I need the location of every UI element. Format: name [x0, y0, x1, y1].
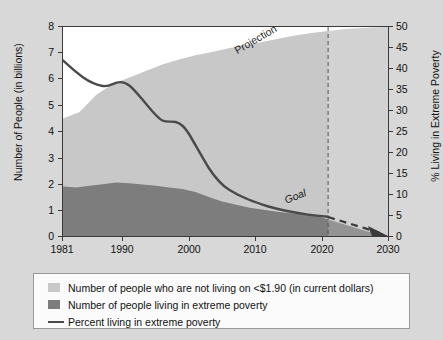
xtick-2020: 2020: [300, 243, 344, 255]
legend-swatch-extreme-poverty: [48, 300, 60, 309]
legend-swatch-not-in-poverty: [48, 283, 60, 292]
tickmark-left-6: [58, 78, 62, 79]
ytick-right-45: 45: [396, 41, 422, 53]
tickmark-right-10: [389, 194, 393, 195]
legend-item-extreme-poverty: Number of people living in extreme pover…: [48, 297, 409, 312]
projection-region: [328, 27, 388, 236]
tickmark-left-2: [58, 184, 62, 185]
plot-area: [62, 26, 389, 237]
xtick-2030: 2030: [366, 243, 410, 255]
tickmark-x-2020: [322, 237, 323, 241]
chart-svg: [63, 27, 388, 236]
tickmark-left-5: [58, 105, 62, 106]
y-axis-title-left: Number of People (in billions): [12, 32, 24, 192]
tickmark-right-15: [389, 173, 393, 174]
ytick-left-8: 8: [28, 20, 54, 32]
ytick-right-40: 40: [396, 62, 422, 74]
ytick-right-35: 35: [396, 83, 422, 95]
tickmark-left-3: [58, 158, 62, 159]
xtick-1981: 1981: [40, 243, 84, 255]
ytick-left-2: 2: [28, 178, 54, 190]
ytick-left-5: 5: [28, 99, 54, 111]
tickmark-x-2030: [388, 237, 389, 241]
tickmark-x-2010: [255, 237, 256, 241]
ytick-right-5: 5: [396, 209, 422, 221]
ytick-right-50: 50: [396, 20, 422, 32]
xtick-2000: 2000: [167, 243, 211, 255]
tickmark-right-30: [389, 110, 393, 111]
ytick-right-0: 0: [396, 230, 422, 242]
tickmark-right-20: [389, 152, 393, 153]
tickmark-x-1981: [62, 237, 63, 241]
ytick-right-10: 10: [396, 188, 422, 200]
tickmark-left-1: [58, 210, 62, 211]
tickmark-right-5: [389, 215, 393, 216]
tickmark-right-25: [389, 131, 393, 132]
tickmark-right-50: [389, 26, 393, 27]
ytick-left-4: 4: [28, 125, 54, 137]
tickmark-right-0: [389, 236, 393, 237]
ytick-left-3: 3: [28, 152, 54, 164]
tickmark-right-35: [389, 89, 393, 90]
xtick-2010: 2010: [233, 243, 277, 255]
tickmark-left-8: [58, 26, 62, 27]
tickmark-x-1990: [122, 237, 123, 241]
legend-label-extreme-poverty: Number of people living in extreme pover…: [68, 299, 268, 311]
y-axis-title-right: % Living in Extreme Poverty: [429, 26, 441, 206]
legend-item-not-in-poverty: Number of people who are not living on <…: [48, 280, 409, 295]
chart-legend: Number of people who are not living on <…: [33, 273, 410, 329]
tickmark-right-45: [389, 47, 393, 48]
legend-label-percent-line: Percent living in extreme poverty: [68, 316, 220, 328]
ytick-right-20: 20: [396, 146, 422, 158]
ytick-left-1: 1: [28, 204, 54, 216]
ytick-right-30: 30: [396, 104, 422, 116]
ytick-left-7: 7: [28, 46, 54, 58]
ytick-right-15: 15: [396, 167, 422, 179]
xtick-1990: 1990: [100, 243, 144, 255]
tickmark-x-2000: [189, 237, 190, 241]
tickmark-left-7: [58, 52, 62, 53]
tickmark-left-4: [58, 131, 62, 132]
tickmark-right-40: [389, 68, 393, 69]
legend-swatch-percent-line: [48, 321, 64, 323]
ytick-left-0: 0: [28, 230, 54, 242]
legend-label-not-in-poverty: Number of people who are not living on <…: [68, 282, 374, 294]
chart-figure: 8 7 6 5 4 3 2 1 0 50 45 40 35 30 25 20 1…: [0, 0, 443, 340]
ytick-right-25: 25: [396, 125, 422, 137]
ytick-left-6: 6: [28, 72, 54, 84]
legend-item-percent-line: Percent living in extreme poverty: [48, 314, 409, 329]
